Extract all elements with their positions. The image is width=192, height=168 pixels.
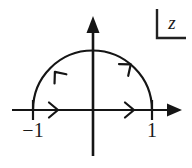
- contour-diagram-canvas: −1 1 z: [0, 0, 192, 168]
- tick-label-minus-one: −1: [22, 119, 43, 141]
- real-axis-arrowhead-icon: [167, 104, 182, 117]
- tick-label-plus-one: 1: [147, 119, 157, 141]
- real-axis: [12, 104, 182, 117]
- complex-plane-figure: −1 1 z: [0, 0, 192, 168]
- imaginary-axis: [87, 16, 100, 156]
- imaginary-axis-arrowhead-icon: [87, 16, 100, 33]
- z-plane-corner-bracket: z: [157, 9, 186, 38]
- plane-label-z: z: [167, 12, 176, 33]
- arc-arrow-left: [49, 67, 66, 83]
